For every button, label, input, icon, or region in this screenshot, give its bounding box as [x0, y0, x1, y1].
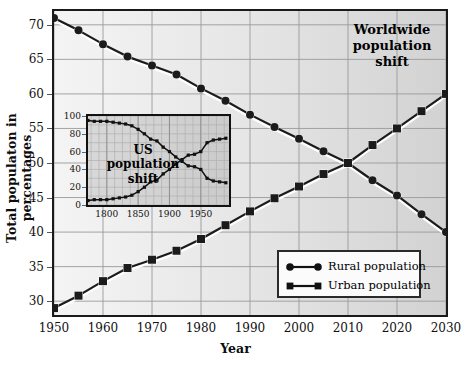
inset-title-line-1: US [94, 143, 192, 157]
legend-circle-marker-icon [285, 259, 323, 273]
y-axis-tick-label: 70 [4, 18, 44, 32]
chart-title-line-2: population [328, 38, 456, 54]
legend-label-urban: Urban population [323, 278, 431, 292]
y-axis-tick-label: 35 [4, 260, 44, 274]
y-axis-tick-label: 55 [4, 121, 44, 135]
inset-y-axis-tick-label: 40 [55, 164, 81, 174]
legend-item-rural[interactable]: Rural population [285, 256, 413, 275]
legend-item-urban[interactable]: Urban population [285, 275, 413, 294]
y-axis-tick-label: 45 [4, 191, 44, 205]
y-axis-tick-label: 40 [4, 225, 44, 239]
legend-label-rural: Rural population [323, 259, 426, 273]
y-axis-tick-label: 60 [4, 87, 44, 101]
y-axis-tick-label: 65 [4, 52, 44, 66]
y-axis-title: Total populaton in percentages [4, 68, 34, 288]
inset-title-line-2: population [94, 157, 192, 171]
inset-title-line-3: shift [94, 172, 192, 186]
x-axis-tick-label: 2030 [416, 321, 471, 335]
inset-y-axis-tick-label: 60 [55, 147, 81, 157]
inset-y-axis-tick-label: 100 [55, 111, 81, 121]
x-axis-title: Year [0, 341, 471, 356]
y-axis-tick-label: 30 [4, 294, 44, 308]
chart-title: Worldwide population shift [328, 22, 456, 70]
chart-title-line-1: Worldwide [328, 22, 456, 38]
inset-title: US population shift [94, 143, 192, 186]
inset-y-axis-tick-label: 0 [55, 200, 81, 210]
legend-square-marker-icon [285, 278, 323, 292]
chart-canvas: Total populaton in percentages 303540455… [0, 0, 471, 366]
inset-y-axis-tick-label: 20 [55, 182, 81, 192]
inset-x-axis-tick-label: 1950 [181, 209, 221, 219]
chart-title-line-3: shift [328, 54, 456, 70]
y-axis-tick-label: 50 [4, 156, 44, 170]
legend: Rural population Urban population [277, 250, 421, 298]
inset-y-axis-tick-label: 80 [55, 129, 81, 139]
